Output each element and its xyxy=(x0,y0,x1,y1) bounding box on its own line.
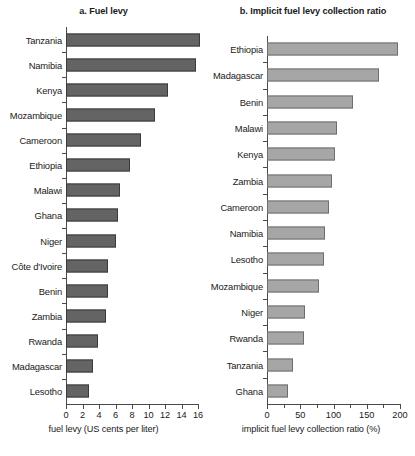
bar-row: Namibia xyxy=(0,52,207,77)
category-label: Lesotho xyxy=(30,386,62,397)
bar xyxy=(267,227,325,240)
bar xyxy=(267,305,305,318)
bar-row: Niger xyxy=(0,228,207,253)
bar-row: Mozambique xyxy=(0,102,207,127)
x-axis-tick xyxy=(149,405,150,409)
bar xyxy=(66,33,200,46)
x-axis-tick-label: 50 xyxy=(295,410,305,420)
bar-row: Madagascar xyxy=(207,62,415,88)
bar-row: Niger xyxy=(207,299,415,325)
category-label: Rwanda xyxy=(230,333,264,344)
x-axis-tick xyxy=(182,405,183,409)
bar-row: Ethiopia xyxy=(207,36,415,62)
x-axis-tick xyxy=(83,405,84,409)
x-axis-tick-label: 14 xyxy=(176,410,186,420)
bar xyxy=(267,279,319,292)
bar xyxy=(267,43,398,56)
category-label: Kenya xyxy=(237,149,263,160)
category-label: Tanzania xyxy=(26,34,62,45)
category-label: Côte d'Ivoire xyxy=(12,260,62,271)
category-label: Ghana xyxy=(35,210,62,221)
bar xyxy=(66,58,196,71)
category-label: Ghana xyxy=(236,385,263,396)
bar xyxy=(66,159,130,172)
x-axis-tick xyxy=(267,405,268,409)
bar-row: Rwanda xyxy=(207,325,415,351)
bar xyxy=(267,384,288,397)
x-axis-minor-tick xyxy=(284,405,285,408)
category-label: Niger xyxy=(241,306,263,317)
category-label: Ethiopia xyxy=(29,160,62,171)
bar xyxy=(267,121,337,134)
bar-row: Namibia xyxy=(207,220,415,246)
bar xyxy=(267,148,335,161)
x-axis-tick-label: 100 xyxy=(326,410,341,420)
bar xyxy=(66,335,98,348)
x-axis-tick xyxy=(300,405,301,409)
bar xyxy=(66,184,120,197)
bar xyxy=(66,385,89,398)
bar xyxy=(267,174,332,187)
category-label: Namibia xyxy=(29,59,62,70)
category-label: Lesotho xyxy=(231,254,263,265)
x-axis-tick-label: 12 xyxy=(160,410,170,420)
x-axis-tick-label: 16 xyxy=(193,410,203,420)
bar xyxy=(66,284,108,297)
x-axis-title: implicit fuel levy collection ratio (%) xyxy=(207,424,415,434)
bar xyxy=(66,259,108,272)
x-axis-tick-label: 0 xyxy=(264,410,269,420)
x-axis-tick-label: 200 xyxy=(392,410,407,420)
bar xyxy=(66,360,93,373)
panel-b-plot-area: EthiopiaMadagascarBeninMalawiKenyaZambia… xyxy=(207,0,415,456)
x-axis-tick-label: 2 xyxy=(80,410,85,420)
bar-row: Tanzania xyxy=(0,27,207,52)
category-label: Benin xyxy=(240,96,263,107)
category-label: Madagascar xyxy=(12,361,62,372)
bar xyxy=(267,69,379,82)
category-label: Malawi xyxy=(34,185,62,196)
bar-row: Ghana xyxy=(207,378,415,404)
x-axis-tick-label: 10 xyxy=(143,410,153,420)
category-label: Malawi xyxy=(235,122,263,133)
x-axis-tick-label: 150 xyxy=(359,410,374,420)
bar-row: Tanzania xyxy=(207,351,415,377)
bar-row: Malawi xyxy=(0,178,207,203)
category-label: Zambia xyxy=(32,311,62,322)
category-label: Rwanda xyxy=(29,336,63,347)
bar xyxy=(267,332,304,345)
category-label: Madagascar xyxy=(213,70,263,81)
bar-row: Mozambique xyxy=(207,273,415,299)
category-label: Cameroon xyxy=(19,135,62,146)
bar-row: Malawi xyxy=(207,115,415,141)
bar-row: Cameroon xyxy=(0,128,207,153)
x-axis-tick xyxy=(165,405,166,409)
x-axis-tick-label: 8 xyxy=(129,410,134,420)
bar-row: Cameroon xyxy=(207,194,415,220)
x-axis-tick-label: 4 xyxy=(96,410,101,420)
panel-collection-ratio: b. Implicit fuel levy collection ratio E… xyxy=(207,0,415,456)
bar-row: Ethiopia xyxy=(0,153,207,178)
category-label: Zambia xyxy=(233,175,263,186)
category-label: Kenya xyxy=(36,84,62,95)
bar-row: Rwanda xyxy=(0,329,207,354)
category-label: Tanzania xyxy=(227,359,263,370)
bar-row: Lesotho xyxy=(0,379,207,404)
bar xyxy=(267,95,353,108)
x-axis-tick xyxy=(116,405,117,409)
x-axis-tick-label: 6 xyxy=(113,410,118,420)
x-axis-tick xyxy=(198,405,199,409)
panel-fuel-levy: a. Fuel levy TanzaniaNamibiaKenyaMozambi… xyxy=(0,0,207,456)
bar-row: Benin xyxy=(0,278,207,303)
figure-root: a. Fuel levy TanzaniaNamibiaKenyaMozambi… xyxy=(0,0,415,456)
category-label: Ethiopia xyxy=(230,44,263,55)
category-label: Cameroon xyxy=(220,201,263,212)
bar xyxy=(66,134,141,147)
bar-row: Madagascar xyxy=(0,354,207,379)
x-axis-title: fuel levy (US cents per liter) xyxy=(0,424,207,434)
bar-row: Lesotho xyxy=(207,246,415,272)
x-axis-minor-tick xyxy=(350,405,351,408)
x-axis-tick xyxy=(400,405,401,409)
bar-row: Ghana xyxy=(0,203,207,228)
x-axis-tick xyxy=(334,405,335,409)
panel-a-plot-area: TanzaniaNamibiaKenyaMozambiqueCameroonEt… xyxy=(0,0,207,456)
